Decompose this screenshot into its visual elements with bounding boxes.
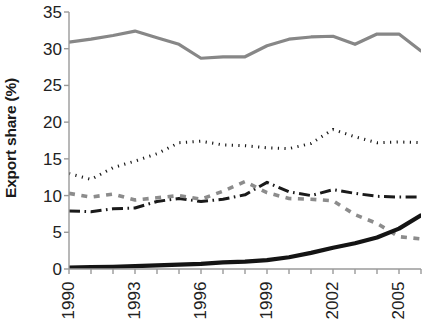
x-tick-label: 1999 — [244, 274, 290, 309]
x-tick-label: 1990 — [46, 274, 92, 309]
x-tick-label-text: 2002 — [324, 282, 341, 319]
x-tick-label-text: 1993 — [126, 282, 143, 319]
x-tick-label: 2002 — [310, 274, 356, 309]
chart-container: Export share (%) 35302520151050 19901993… — [0, 0, 424, 319]
x-axis-tick-labels: 199019931996199920022005 — [0, 274, 424, 319]
x-tick-label-text: 1999 — [258, 282, 275, 319]
x-tick-label-text: 2005 — [390, 282, 407, 319]
x-tick-label: 1993 — [112, 274, 158, 309]
x-tick-label: 1996 — [178, 274, 224, 309]
x-tick-label-text: 1996 — [192, 282, 209, 319]
axes — [0, 0, 424, 319]
x-tick-label-text: 1990 — [60, 282, 77, 319]
x-tick-label: 2005 — [376, 274, 422, 309]
